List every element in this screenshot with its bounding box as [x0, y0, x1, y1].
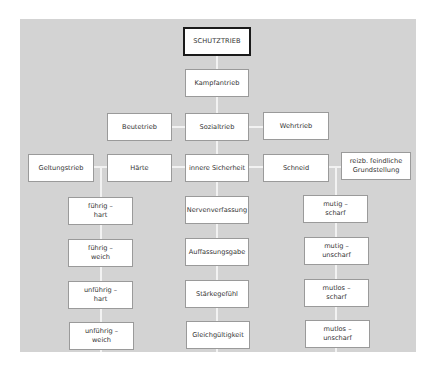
- node-label: Auffassungsgabe: [189, 248, 246, 257]
- node-kampfantrieb: Kampfantrieb: [185, 69, 249, 97]
- node-label: mutig – scharf: [323, 200, 348, 218]
- node-label: unführig – weich: [85, 327, 118, 345]
- node-schutztrieb: SCHUTZTRIEB: [183, 27, 251, 56]
- node-label: Sozialtrieb: [200, 123, 235, 132]
- node-unfuehrig-hart: unführig – hart: [68, 281, 133, 309]
- node-mutig-scharf: mutig – scharf: [303, 195, 368, 223]
- node-label: Härte: [130, 164, 148, 173]
- node-label: Nervenverfassung: [187, 206, 247, 215]
- node-geltungstrieb: Geltungstrieb: [28, 154, 94, 182]
- node-label: SCHUTZTRIEB: [193, 37, 240, 46]
- node-label: Kampfantrieb: [195, 79, 240, 88]
- node-fuehrig-hart: führig – hart: [68, 197, 133, 225]
- node-nervenverfassung: Nervenverfassung: [185, 196, 249, 224]
- node-mutlos-unscharf: mutlos – unscharf: [305, 320, 370, 348]
- node-label: Beutetrieb: [122, 123, 157, 132]
- node-gleichgueltigkeit: Gleichgültigkeit: [186, 321, 250, 349]
- node-label: mutlos – unscharf: [323, 325, 352, 343]
- node-label: führig – hart: [88, 202, 113, 220]
- node-wehrtrieb: Wehrtrieb: [263, 112, 329, 140]
- node-fuehrig-weich: führig – weich: [68, 239, 133, 267]
- node-label: reizb. feindliche Grundstellung: [350, 157, 402, 175]
- node-label: Schneid: [283, 164, 309, 173]
- node-haerte: Härte: [107, 154, 172, 182]
- node-label: unführig – hart: [84, 286, 117, 304]
- node-beutetrieb: Beutetrieb: [107, 113, 172, 141]
- node-unfuehrig-weich: unführig – weich: [69, 322, 134, 350]
- node-label: mutlos – scharf: [323, 284, 351, 302]
- node-schneid: Schneid: [263, 154, 329, 182]
- node-label: Gleichgültigkeit: [192, 331, 244, 340]
- node-sozialtrieb: Sozialtrieb: [185, 113, 249, 141]
- node-label: Geltungstrieb: [39, 164, 84, 173]
- node-label: führig – weich: [88, 244, 113, 262]
- node-label: mutig – unscharf: [322, 242, 351, 260]
- node-innere-sicherheit: innere Sicherheit: [185, 154, 249, 182]
- node-label: Wehrtrieb: [280, 122, 312, 131]
- node-staerkegefuehl: Stärkegefühl: [185, 280, 249, 308]
- node-label: Stärkegefühl: [196, 290, 238, 299]
- node-reizbare-feindliche-grundstellung: reizb. feindliche Grundstellung: [341, 152, 411, 180]
- node-label: innere Sicherheit: [189, 164, 245, 173]
- node-mutlos-scharf: mutlos – scharf: [304, 279, 369, 307]
- node-mutig-unscharf: mutig – unscharf: [304, 237, 369, 265]
- node-auffassungsgabe: Auffassungsgabe: [185, 238, 249, 266]
